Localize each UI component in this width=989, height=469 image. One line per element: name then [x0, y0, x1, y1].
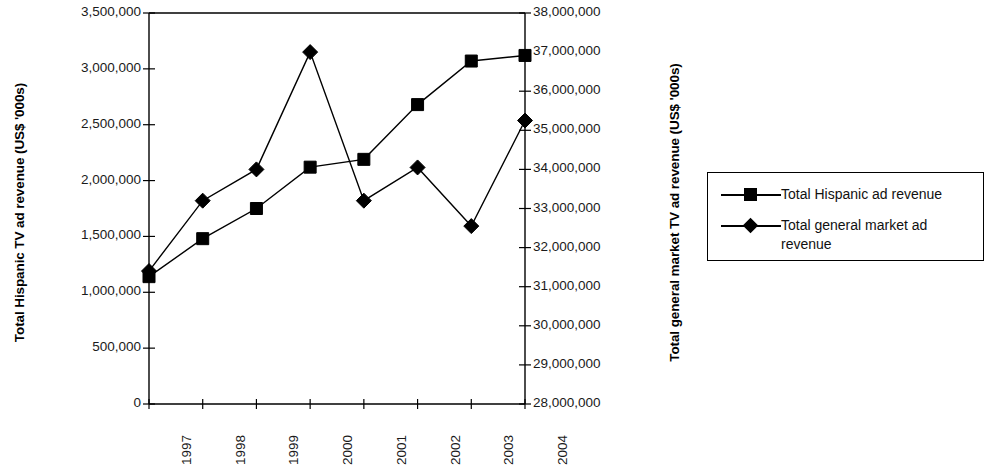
y-axis-left-tick-label: 1,500,000: [37, 228, 141, 242]
y-axis-left-tick-label: 2,000,000: [37, 173, 141, 187]
y-axis-right-tick-label: 28,000,000: [533, 396, 601, 410]
data-point-diamond: [356, 193, 371, 208]
y-axis-left-title: Total Hispanic TV ad revenue (US$ '000s): [12, 48, 27, 378]
y-axis-right-tick-label: 38,000,000: [533, 5, 601, 19]
y-axis-right-tick-label: 31,000,000: [533, 279, 601, 293]
square-marker-icon: [721, 186, 781, 204]
x-axis-tick-label: 1998: [233, 435, 248, 469]
legend-item-general-market: Total general market ad revenue: [721, 216, 977, 254]
x-axis-tick-label: 2000: [340, 435, 355, 469]
data-point-diamond: [249, 162, 264, 177]
y-axis-right-tick-label: 37,000,000: [533, 44, 601, 58]
data-point-square: [465, 55, 477, 67]
data-point-square: [519, 49, 531, 61]
y-axis-left-tick-label: 1,000,000: [37, 284, 141, 298]
x-axis-tick-label: 2002: [448, 435, 463, 469]
data-point-diamond: [195, 193, 210, 208]
y-axis-right-tick-label: 33,000,000: [533, 201, 601, 215]
x-axis-tick-label: 2004: [555, 435, 570, 469]
chart-legend: Total Hispanic ad revenue Total general …: [707, 172, 984, 261]
data-point-square: [358, 153, 370, 165]
legend-label: Total general market ad revenue: [781, 216, 977, 254]
y-axis-right-tick-label: 36,000,000: [533, 83, 601, 97]
x-axis-tick-label: 1999: [286, 435, 301, 469]
x-axis-tick-label: 2003: [501, 435, 516, 469]
data-point-square: [197, 233, 209, 245]
y-axis-left-tick-label: 3,000,000: [37, 61, 141, 75]
y-axis-right-tick-label: 34,000,000: [533, 161, 601, 175]
y-axis-left-tick-label: 2,500,000: [37, 117, 141, 131]
y-axis-right-tick-label: 35,000,000: [533, 122, 601, 136]
y-axis-left-tick-label: 3,500,000: [37, 5, 141, 19]
y-axis-right-tick-label: 29,000,000: [533, 357, 601, 371]
x-axis-tick-label: 1997: [179, 435, 194, 469]
data-point-square: [412, 99, 424, 111]
data-point-diamond: [303, 45, 318, 60]
y-axis-left-tick-label: 500,000: [37, 340, 141, 354]
x-axis-tick-label: 2001: [394, 435, 409, 469]
diamond-marker-icon: [721, 217, 781, 235]
y-axis-right-title: Total general market TV ad revenue (US$ …: [667, 48, 682, 378]
data-point-square: [250, 203, 262, 215]
legend-label: Total Hispanic ad revenue: [781, 185, 942, 204]
data-point-diamond: [518, 113, 533, 128]
y-axis-left-tick-label: 0: [37, 396, 141, 410]
y-axis-right-tick-label: 30,000,000: [533, 318, 601, 332]
y-axis-right-tick-label: 32,000,000: [533, 240, 601, 254]
legend-item-hispanic: Total Hispanic ad revenue: [721, 185, 942, 204]
data-point-square: [304, 161, 316, 173]
